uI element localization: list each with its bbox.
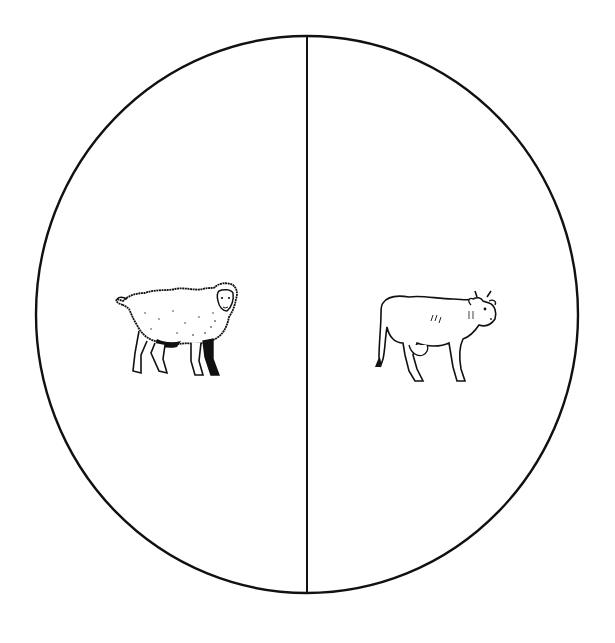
cow-icon [375,291,496,381]
sheep-icon [116,283,237,375]
diagram-canvas: sheep cow [0,0,615,643]
